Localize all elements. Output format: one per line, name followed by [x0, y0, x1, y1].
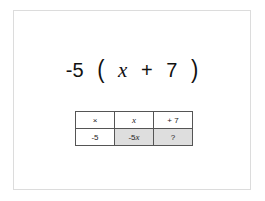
- problem-card: -5 ( x + 7 ): [13, 10, 251, 190]
- header-constant: + 7: [154, 112, 193, 129]
- unknown-product-cell[interactable]: ?: [154, 129, 193, 146]
- multiplication-table: × x + 7 -5 -5x ?: [75, 111, 193, 146]
- product-variable-cell: -5x: [115, 129, 154, 146]
- expression: -5 ( x + 7 ): [14, 58, 250, 82]
- times-symbol: ×: [76, 112, 115, 129]
- table-header-row: × x + 7: [76, 112, 193, 129]
- open-paren: (: [97, 56, 104, 84]
- close-paren: ): [191, 56, 198, 84]
- product-variable: x: [136, 132, 140, 142]
- product-coefficient: -5: [128, 133, 135, 142]
- row-multiplier: -5: [76, 129, 115, 146]
- coefficient: -5: [66, 58, 84, 82]
- header-variable: x: [115, 112, 154, 129]
- header-variable-text: x: [132, 115, 136, 125]
- variable: x: [118, 58, 127, 82]
- constant: 7: [166, 58, 177, 82]
- table-row: -5 -5x ?: [76, 129, 193, 146]
- operator: +: [141, 58, 153, 82]
